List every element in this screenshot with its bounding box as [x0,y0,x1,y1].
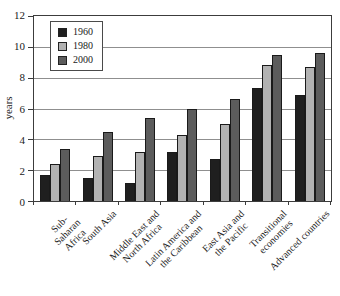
y-tick-mark [28,139,33,140]
bar-2000 [315,53,325,201]
bar-group [289,16,331,201]
bar-2000 [187,109,197,202]
bar-2000 [145,118,155,201]
bar-1960 [210,159,220,201]
y-tick-mark [28,47,33,48]
y-tick-mark [28,78,33,79]
bar-1980 [135,152,145,201]
y-tick-mark [28,170,33,171]
bar-2000 [272,55,282,201]
legend-label: 1980 [73,41,93,51]
y-tick-mark [28,109,33,110]
y-tick-labels: 024681012 [0,15,29,202]
bar-1960 [295,95,305,201]
x-tick-mark [330,201,331,205]
y-tick-label: 8 [1,70,25,84]
bar-1980 [305,67,315,201]
x-category-label: Sub-Saharan Africa [43,208,91,256]
bar-group [119,16,161,201]
legend-label: 1960 [73,27,93,37]
legend-swatch-1960 [58,28,67,37]
legend-row: 1960 [58,27,93,37]
bar-2000 [103,132,113,201]
x-tick-mark [75,201,76,205]
legend-label: 2000 [73,55,93,65]
legend-swatch-1980 [58,42,67,51]
x-tick-mark [203,201,204,205]
bar-group [204,16,246,201]
x-tick-mark [245,201,246,205]
bar-1980 [50,164,60,201]
legend-swatch-2000 [58,56,67,65]
plot-area: 196019802000 [33,15,332,202]
bar-chart-figure: years 024681012 196019802000 Sub-Saharan… [0,0,340,296]
legend: 196019802000 [50,21,103,71]
bar-group [161,16,203,201]
bar-1960 [40,175,50,201]
bar-1960 [167,152,177,201]
bar-1960 [125,183,135,202]
y-tick-mark [28,16,33,17]
y-tick-label: 0 [1,195,25,209]
y-tick-label: 2 [1,164,25,178]
bar-1980 [177,135,187,201]
y-tick-label: 6 [1,102,25,116]
x-tick-mark [33,201,34,205]
legend-row: 1980 [58,41,93,51]
y-tick-label: 4 [1,133,25,147]
bar-group [246,16,288,201]
y-tick-label: 10 [1,39,25,53]
x-tick-mark [288,201,289,205]
bar-2000 [60,149,70,201]
x-tick-mark [160,201,161,205]
bar-1960 [252,88,262,201]
bar-1980 [93,156,103,201]
x-category-label: East Asia and the Pacific [200,208,254,262]
y-tick-label: 12 [1,8,25,22]
bar-2000 [230,99,240,201]
legend-row: 2000 [58,55,93,65]
bar-1980 [220,124,230,201]
bar-1980 [262,65,272,201]
x-tick-mark [118,201,119,205]
bar-1960 [83,178,93,201]
